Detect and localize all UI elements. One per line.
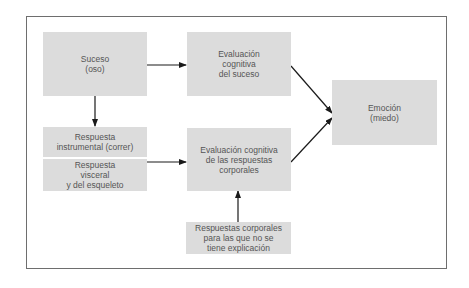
node-text: Respuestas corporales <box>195 223 282 233</box>
node-text: Respuesta <box>57 132 134 142</box>
node-text: Suceso <box>81 54 109 64</box>
node-suceso: Suceso (oso) <box>43 32 147 96</box>
node-text: tiene explicación <box>195 243 282 253</box>
node-text: y del esqueleto <box>66 180 123 190</box>
node-emocion: Emoción (miedo) <box>332 80 437 145</box>
node-text: instrumental (correr) <box>57 142 134 152</box>
node-text: (oso) <box>81 64 109 74</box>
arrow-evaluacion-respuestas-to-emocion <box>291 118 332 162</box>
node-respuestas-sin-explicacion: Respuestas corporales para las que no se… <box>186 222 291 254</box>
node-text: (miedo) <box>368 113 401 123</box>
node-text: Emoción <box>368 103 401 113</box>
node-text: para las que no se <box>195 233 282 243</box>
node-text: Respuesta <box>66 160 123 170</box>
node-text: Evaluación <box>218 49 260 59</box>
node-text: cognitiva <box>218 59 260 69</box>
node-text: visceral <box>66 170 123 180</box>
node-text: del suceso <box>218 69 260 79</box>
node-text: de las respuestas <box>200 155 278 165</box>
arrow-evaluacion-suceso-to-emocion <box>291 66 332 113</box>
node-text: Evaluación cognitiva <box>200 145 278 155</box>
node-respuesta-instrumental: Respuesta instrumental (correr) <box>43 127 147 157</box>
node-respuesta-visceral: Respuesta visceral y del esqueleto <box>43 159 147 191</box>
node-evaluacion-suceso: Evaluación cognitiva del suceso <box>187 32 291 96</box>
node-text: corporales <box>200 165 278 175</box>
node-evaluacion-respuestas: Evaluación cognitiva de las respuestas c… <box>187 128 291 191</box>
